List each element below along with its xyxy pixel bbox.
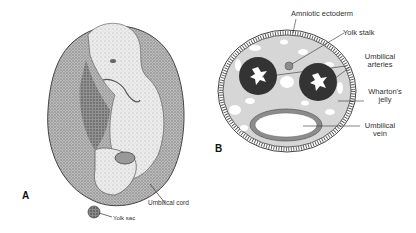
- label-amniotic-ectoderm: Amniotic ectoderm: [291, 10, 353, 18]
- cord-cross-section: [200, 0, 416, 233]
- panel-letter-b: B: [215, 143, 222, 154]
- umbilical-cord-coil: [115, 152, 135, 164]
- panel-letter-a: A: [22, 190, 29, 201]
- yolk-sac-leader: [99, 213, 112, 217]
- label-yolk-sac: Yolk sac: [113, 214, 135, 222]
- yolk-stalk: [285, 62, 293, 70]
- label-yolk-stalk: Yolk stalk: [343, 29, 374, 37]
- vein-lumen: [255, 113, 317, 137]
- panel-b-cross-section: Amniotic ectoderm Yolk stalk Umbilical a…: [200, 0, 416, 233]
- embryo-eye: [110, 59, 116, 63]
- yolk-sac: [88, 206, 100, 218]
- label-umbilical-vein: Umbilical vein: [360, 122, 400, 138]
- label-umbilical-cord: Umbilical cord: [148, 199, 189, 207]
- panel-a-embryo: A Umbilical cord Yolk sac: [0, 0, 210, 233]
- label-whartons-jelly: Wharton's jelly: [365, 88, 405, 104]
- label-umbilical-arteries: Umbilical arteries: [360, 53, 400, 69]
